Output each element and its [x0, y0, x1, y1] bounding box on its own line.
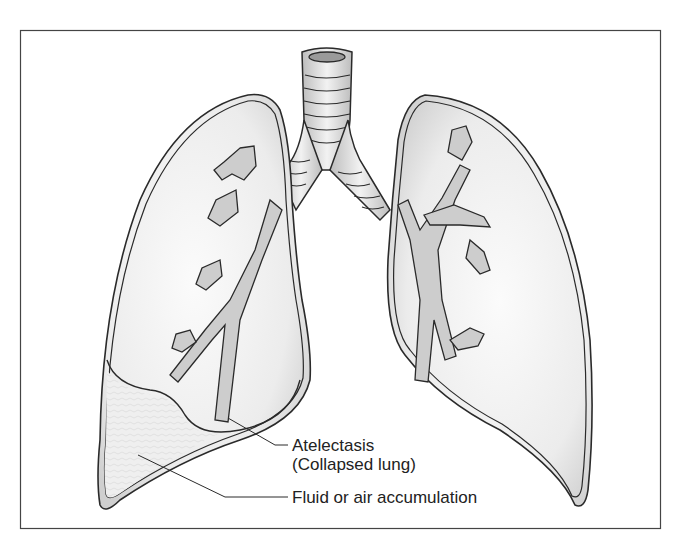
label-atelectasis-line2: (Collapsed lung) [292, 455, 416, 474]
label-fluid-line1: Fluid or air accumulation [292, 488, 477, 507]
label-fluid: Fluid or air accumulation [292, 488, 477, 507]
label-atelectasis-line1: Atelectasis [292, 436, 416, 455]
label-atelectasis: Atelectasis (Collapsed lung) [292, 436, 416, 474]
